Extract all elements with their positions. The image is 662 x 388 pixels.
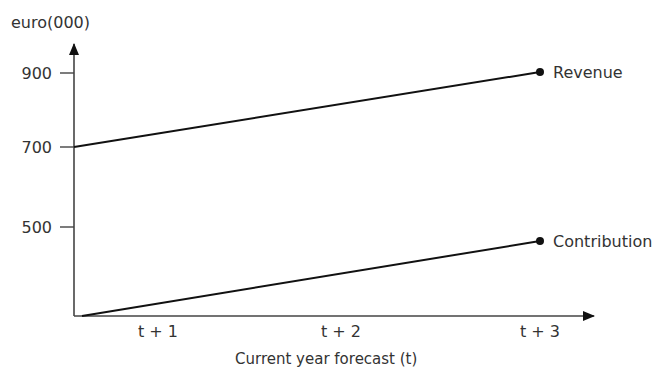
contribution-end-marker — [536, 237, 544, 245]
chart: euro(000) 900 700 500 Revenue Contributi… — [0, 0, 662, 388]
x-tick-label-t3: t + 3 — [520, 322, 560, 341]
revenue-series-label: Revenue — [553, 63, 623, 82]
y-tick-label-700: 700 — [21, 138, 52, 157]
y-tick-label-900: 900 — [21, 64, 52, 83]
y-tick-label-500: 500 — [21, 218, 52, 237]
y-axis-label: euro(000) — [11, 13, 90, 32]
revenue-end-marker — [536, 68, 544, 76]
x-axis-label: Current year forecast (t) — [235, 350, 417, 368]
revenue-line — [74, 72, 540, 147]
x-tick-label-t1: t + 1 — [138, 322, 178, 341]
x-tick-label-t2: t + 2 — [321, 322, 361, 341]
contribution-line — [82, 241, 540, 316]
contribution-series-label: Contribution — [553, 232, 652, 251]
